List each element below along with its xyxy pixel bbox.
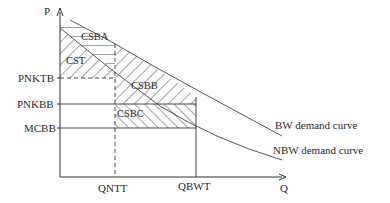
tick-pnktb: PNKTB — [18, 73, 54, 84]
y-axis-label: P — [44, 6, 50, 17]
tick-mcbb: MCBB — [24, 123, 56, 134]
tick-qbwt: QBWT — [178, 181, 210, 192]
nbw-curve-label: NBW demand curve — [273, 145, 363, 156]
demand-diagram — [0, 0, 390, 203]
label-csba: CSBA — [81, 32, 108, 43]
bw-curve-label: BW demand curve — [275, 120, 357, 131]
tick-qntt: QNTT — [98, 183, 127, 194]
label-csbc: CSBC — [117, 109, 144, 120]
label-cst: CST — [66, 56, 85, 67]
x-axis-label: Q — [280, 183, 288, 194]
tick-pnkbb: PNKBB — [17, 99, 54, 110]
area-csbb — [115, 44, 196, 104]
label-csbb: CSBB — [131, 81, 158, 92]
